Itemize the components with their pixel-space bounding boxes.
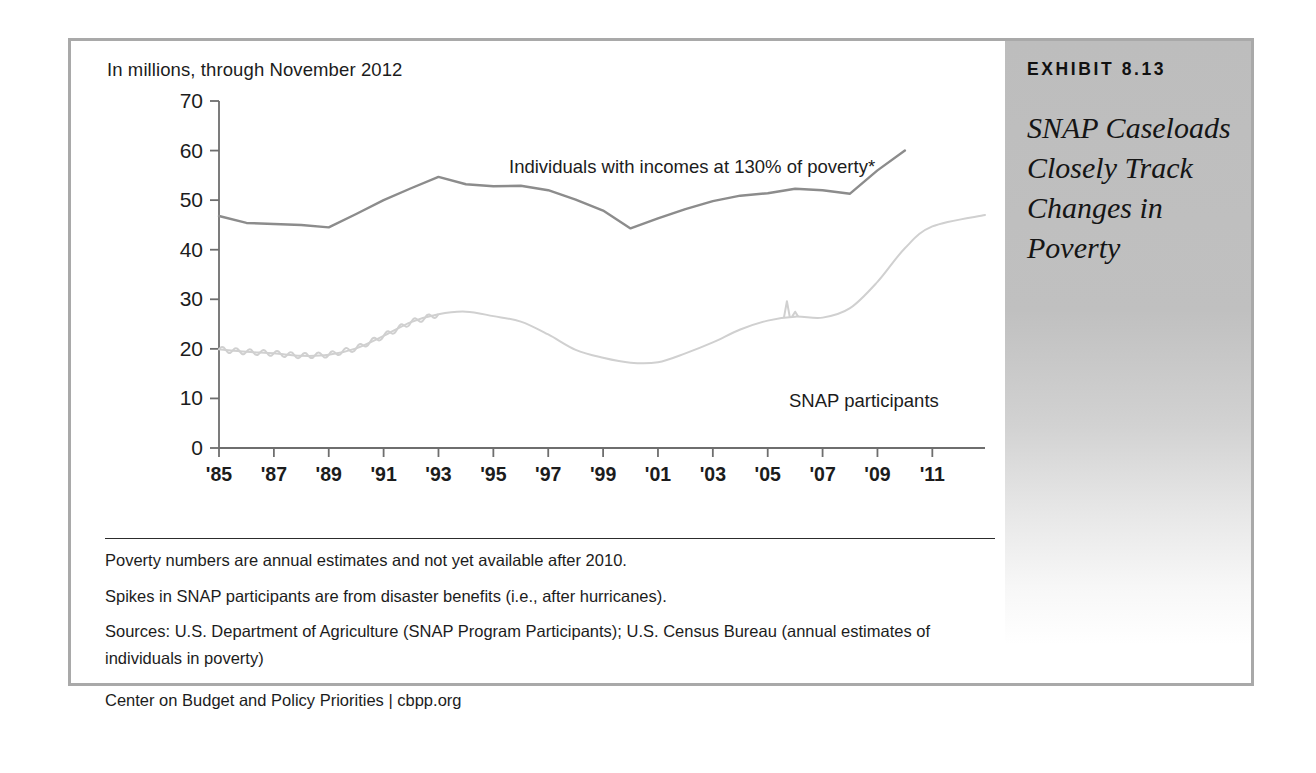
svg-text:10: 10	[180, 386, 203, 409]
snap-series-label: SNAP participants	[789, 390, 939, 412]
note-poverty: Poverty numbers are annual estimates and…	[105, 547, 1010, 574]
svg-text:'85: '85	[206, 463, 232, 485]
svg-text:'07: '07	[809, 463, 835, 485]
exhibit-sidebar: EXHIBIT 8.13 SNAP Caseloads Closely Trac…	[1005, 41, 1251, 683]
svg-text:30: 30	[180, 287, 203, 310]
svg-text:'91: '91	[370, 463, 396, 485]
svg-text:'09: '09	[864, 463, 890, 485]
svg-text:20: 20	[180, 337, 203, 360]
notes-divider	[105, 538, 995, 539]
chart-panel: In millions, through November 2012 01020…	[71, 41, 1011, 683]
svg-text:'95: '95	[480, 463, 506, 485]
svg-text:'97: '97	[535, 463, 561, 485]
poverty-series-label: Individuals with incomes at 130% of pove…	[509, 156, 875, 178]
x-axis: '85'87'89'91'93'95'97'99'01'03'05'07'09'…	[206, 448, 985, 485]
line-chart-svg: 010203040506070 '85'87'89'91'93'95'97'99…	[101, 93, 991, 503]
exhibit-number-label: EXHIBIT 8.13	[1027, 59, 1231, 80]
plot-area: 010203040506070 '85'87'89'91'93'95'97'99…	[101, 93, 991, 503]
data-series-group	[219, 151, 985, 364]
svg-text:'01: '01	[645, 463, 671, 485]
series-line-1	[219, 215, 985, 363]
svg-text:'87: '87	[261, 463, 287, 485]
svg-text:'11: '11	[920, 463, 945, 485]
svg-text:'99: '99	[590, 463, 616, 485]
chart-subtitle: In millions, through November 2012	[107, 59, 402, 81]
svg-text:50: 50	[180, 188, 203, 211]
note-sources: Sources: U.S. Department of Agriculture …	[105, 618, 1010, 671]
svg-text:'05: '05	[755, 463, 781, 485]
y-axis: 010203040506070	[180, 93, 219, 459]
svg-text:'03: '03	[700, 463, 726, 485]
exhibit-title: SNAP Caseloads Closely Track Changes in …	[1027, 108, 1231, 268]
svg-text:40: 40	[180, 238, 203, 261]
svg-text:0: 0	[191, 436, 203, 459]
svg-text:60: 60	[180, 139, 203, 162]
exhibit-figure: In millions, through November 2012 01020…	[68, 38, 1254, 686]
note-credit: Center on Budget and Policy Priorities |…	[105, 687, 1010, 714]
svg-text:70: 70	[180, 93, 203, 112]
snap-spike-0	[784, 301, 790, 318]
series-line-1-monthly-detail	[219, 314, 438, 358]
svg-text:'93: '93	[425, 463, 451, 485]
notes-block: Poverty numbers are annual estimates and…	[105, 547, 1010, 714]
note-spikes: Spikes in SNAP participants are from dis…	[105, 583, 1010, 610]
svg-text:'89: '89	[316, 463, 342, 485]
